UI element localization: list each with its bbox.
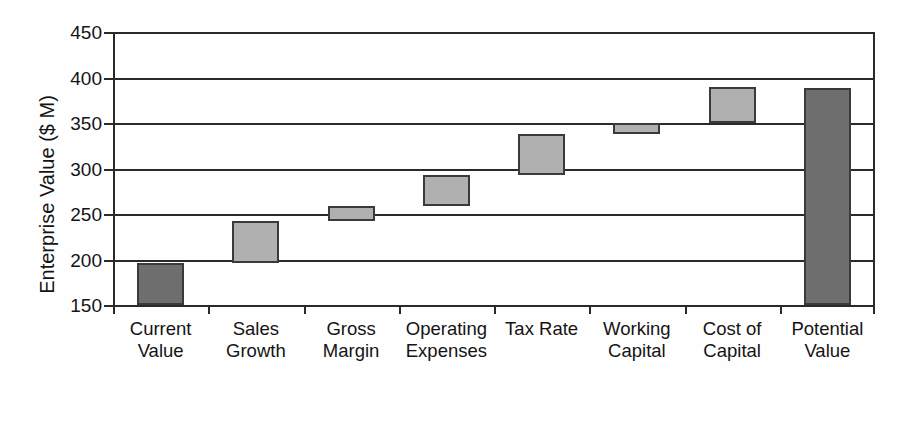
y-tick-label: 300	[42, 160, 102, 179]
bar-current-value	[137, 263, 184, 305]
bar-potential-value	[804, 88, 851, 305]
x-tick-label-line: Current	[107, 318, 214, 340]
y-tick-mark	[104, 123, 113, 125]
x-tick-label-line: Capital	[583, 340, 690, 362]
x-tick-label-line: Operating	[393, 318, 500, 340]
y-tick-label: 350	[42, 114, 102, 133]
y-tick-mark	[104, 169, 113, 171]
bar-tax-rate	[518, 134, 565, 175]
x-tick-label: Cost ofCapital	[679, 318, 786, 362]
x-tick-label-line: Margin	[298, 340, 405, 362]
x-tick-mark	[113, 305, 115, 314]
x-tick-mark	[399, 305, 401, 314]
y-tick-mark	[104, 32, 113, 34]
x-tick-label: OperatingExpenses	[393, 318, 500, 362]
x-tick-mark	[685, 305, 687, 314]
x-tick-mark	[494, 305, 496, 314]
bar-cost-of-capital	[709, 87, 756, 123]
bar-operating-expenses	[423, 175, 470, 206]
gridline	[113, 78, 875, 80]
y-tick-label: 250	[42, 205, 102, 224]
x-tick-label-line: Sales	[202, 318, 309, 340]
x-tick-label-line: Value	[774, 340, 881, 362]
gridline	[113, 260, 875, 262]
gridline	[113, 169, 875, 171]
x-tick-mark	[589, 305, 591, 314]
x-tick-label: WorkingCapital	[583, 318, 690, 362]
y-tick-mark	[104, 78, 113, 80]
x-tick-mark	[873, 305, 875, 314]
x-tick-label-line: Gross	[298, 318, 405, 340]
y-tick-label: 150	[42, 296, 102, 315]
x-tick-label: Tax Rate	[488, 318, 595, 340]
x-tick-mark	[780, 305, 782, 314]
x-tick-mark	[208, 305, 210, 314]
x-tick-label: PotentialValue	[774, 318, 881, 362]
x-axis-ticks	[113, 305, 875, 314]
y-axis-tick-labels: 450400350300250200150	[40, 32, 102, 305]
y-tick-label: 200	[42, 251, 102, 270]
x-tick-label: SalesGrowth	[202, 318, 309, 362]
y-tick-mark	[104, 260, 113, 262]
y-tick-mark	[104, 305, 113, 307]
bar-sales-growth	[232, 221, 279, 263]
x-tick-label-line: Tax Rate	[488, 318, 595, 340]
waterfall-chart: Enterprise Value ($ M) 45040035030025020…	[0, 0, 898, 431]
x-tick-label-line: Growth	[202, 340, 309, 362]
y-tick-label: 400	[42, 69, 102, 88]
x-axis-tick-labels: CurrentValueSalesGrowthGrossMarginOperat…	[113, 318, 875, 378]
y-tick-mark	[104, 214, 113, 216]
gridline	[113, 32, 875, 34]
x-tick-label-line: Cost of	[679, 318, 786, 340]
x-tick-mark	[304, 305, 306, 314]
x-tick-label-line: Potential	[774, 318, 881, 340]
gridline	[113, 214, 875, 216]
y-tick-label: 450	[42, 23, 102, 42]
x-tick-label: CurrentValue	[107, 318, 214, 362]
x-tick-label: GrossMargin	[298, 318, 405, 362]
x-tick-label-line: Expenses	[393, 340, 500, 362]
bar-gross-margin	[328, 206, 375, 221]
bar-working-capital	[613, 123, 660, 134]
x-tick-label-line: Value	[107, 340, 214, 362]
plot-area	[113, 32, 875, 305]
x-tick-label-line: Working	[583, 318, 690, 340]
gridline	[113, 123, 875, 125]
x-tick-label-line: Capital	[679, 340, 786, 362]
